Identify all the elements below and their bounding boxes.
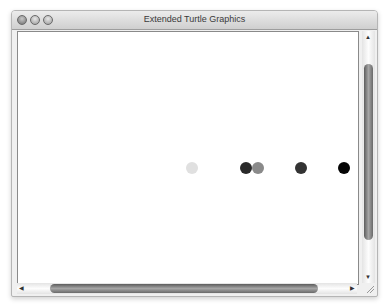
turtle-canvas[interactable] bbox=[17, 31, 359, 285]
scroll-up-arrow-icon[interactable]: ▲ bbox=[365, 34, 371, 40]
turtle-dot bbox=[252, 162, 264, 174]
window-title: Extended Turtle Graphics bbox=[12, 14, 377, 24]
horizontal-scroll-thumb[interactable] bbox=[50, 284, 318, 293]
turtle-dot bbox=[240, 162, 252, 174]
vertical-scroll-thumb[interactable] bbox=[364, 64, 373, 240]
app-window: Extended Turtle Graphics ▲ ▼ ◀ ▶ bbox=[11, 10, 378, 297]
turtle-dot bbox=[186, 162, 198, 174]
scroll-right-arrow-icon[interactable]: ▶ bbox=[350, 285, 355, 291]
scroll-left-arrow-icon[interactable]: ◀ bbox=[19, 285, 24, 291]
vertical-scrollbar[interactable]: ▲ ▼ bbox=[362, 31, 375, 283]
title-bar[interactable]: Extended Turtle Graphics bbox=[12, 11, 377, 30]
scroll-down-arrow-icon[interactable]: ▼ bbox=[365, 274, 371, 280]
turtle-dot bbox=[338, 162, 350, 174]
resize-grip-icon[interactable] bbox=[365, 284, 375, 294]
horizontal-scrollbar[interactable]: ◀ ▶ bbox=[17, 283, 357, 294]
turtle-dot bbox=[295, 162, 307, 174]
